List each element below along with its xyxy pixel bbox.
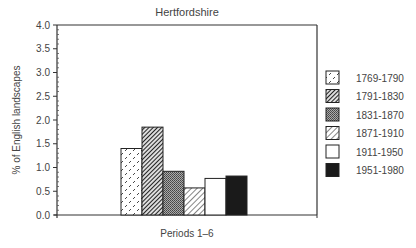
- bar-1871-1910: [184, 188, 205, 215]
- plot-area: 0.00.51.01.52.02.53.03.54.0: [36, 20, 317, 221]
- chart-title: Hertfordshire: [155, 6, 219, 18]
- legend-swatch-1769-1790: [326, 71, 339, 84]
- legend-label: 1951-1980: [356, 165, 404, 176]
- x-axis-label: Periods 1–6: [160, 228, 214, 239]
- y-tick-label: 1.0: [36, 162, 50, 173]
- legend-label: 1831-1870: [356, 110, 404, 121]
- legend-label: 1911-1950: [356, 147, 404, 158]
- bar-1951-1980: [226, 176, 247, 215]
- bar-1769-1790: [121, 149, 142, 216]
- legend-label: 1769-1790: [356, 73, 404, 84]
- legend-swatch-1791-1830: [326, 90, 339, 103]
- legend-swatch-1871-1910: [326, 127, 339, 140]
- y-tick-label: 1.5: [36, 138, 50, 149]
- y-tick-label: 3.5: [36, 43, 50, 54]
- bar-1911-1950: [205, 178, 226, 215]
- bar-1831-1870: [163, 171, 184, 215]
- legend: 1769-17901791-18301831-18701871-19101911…: [326, 71, 404, 177]
- legend-swatch-1951-1980: [326, 164, 339, 177]
- legend-label: 1871-1910: [356, 128, 404, 139]
- y-axis-label: % of English landscapes: [11, 66, 22, 175]
- y-tick-label: 0.5: [36, 186, 50, 197]
- y-tick-label: 2.5: [36, 91, 50, 102]
- chart-canvas: Hertfordshire 0.00.51.01.52.02.53.03.54.…: [0, 0, 416, 248]
- y-tick-label: 4.0: [36, 20, 50, 31]
- bar-1791-1830: [142, 127, 163, 215]
- legend-swatch-1911-1950: [326, 145, 339, 158]
- y-tick-label: 3.0: [36, 67, 50, 78]
- y-tick-label: 0.0: [36, 210, 50, 221]
- legend-label: 1791-1830: [356, 91, 404, 102]
- y-tick-label: 2.0: [36, 115, 50, 126]
- legend-swatch-1831-1870: [326, 108, 339, 121]
